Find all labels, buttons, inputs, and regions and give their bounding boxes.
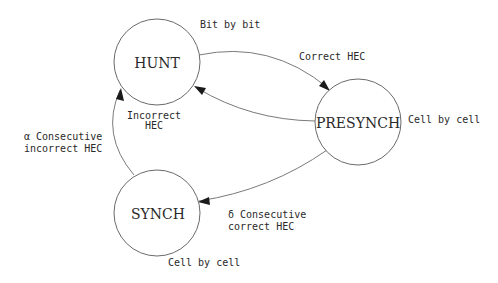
diagram-canvas: HUNT PRESYNCH SYNCH Bit by bit Cell by c… xyxy=(0,0,498,283)
transition-label-alpha-line1: α Consecutive xyxy=(24,131,102,142)
state-diagram: HUNT PRESYNCH SYNCH Bit by bit Cell by c… xyxy=(0,0,498,283)
transition-label-delta-line2: correct HEC xyxy=(228,221,294,232)
edge-synch-to-hunt xyxy=(113,90,134,175)
state-hunt-label: HUNT xyxy=(134,55,180,71)
transition-label-alpha-line2: incorrect HEC xyxy=(24,143,102,154)
state-presynch-label: PRESYNCH xyxy=(316,115,400,131)
edge-presynch-to-synch xyxy=(199,150,327,201)
transition-label-incorrect-hec-line2: HEC xyxy=(145,120,163,131)
state-presynch-note: Cell by cell xyxy=(408,114,480,125)
state-synch-label: SYNCH xyxy=(131,206,185,222)
transition-label-correct-hec: Correct HEC xyxy=(299,51,365,62)
state-synch: SYNCH xyxy=(114,170,200,256)
transition-label-delta-line1: δ Consecutive xyxy=(228,209,306,220)
edge-presynch-to-hunt xyxy=(197,88,315,121)
arrowhead-hunt-bottom xyxy=(116,88,124,101)
state-hunt: HUNT xyxy=(114,19,200,105)
state-presynch: PRESYNCH xyxy=(315,79,401,165)
state-synch-note: Cell by cell xyxy=(168,257,240,268)
state-hunt-note: Bit by bit xyxy=(200,19,260,30)
arrowhead-hunt-right xyxy=(194,86,206,95)
